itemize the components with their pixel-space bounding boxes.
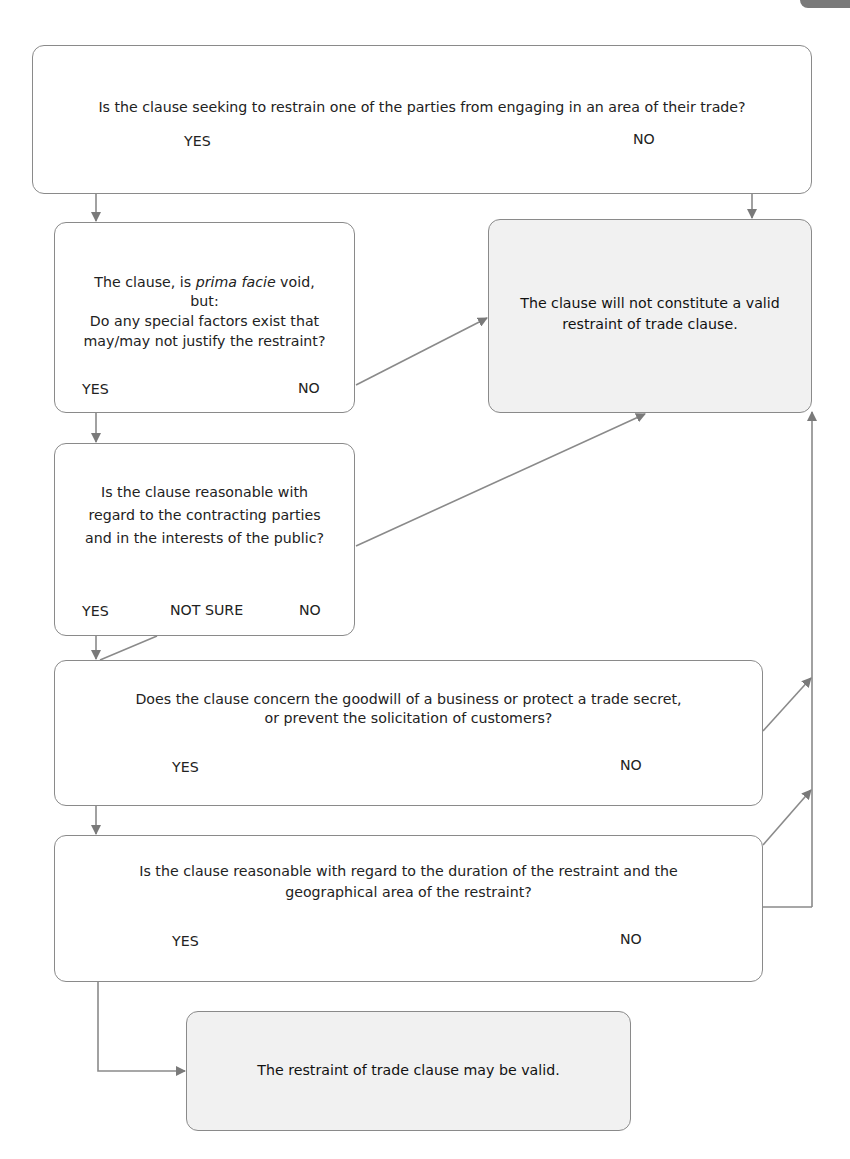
outcome-box-may-be-valid: The restraint of trade clause may be val… <box>186 1011 631 1131</box>
option-no: NO <box>620 930 642 949</box>
option-yes: YES <box>172 758 199 777</box>
question-text-line-4: may/may not justify the restraint? <box>55 332 354 351</box>
question-box-goodwill-trade-secret: Does the clause concern the goodwill of … <box>54 660 763 806</box>
outcome-text-line-2: restraint of trade clause. <box>489 315 811 334</box>
edge-q3-notsure <box>100 636 157 660</box>
question-text-line-2: but: <box>55 292 354 311</box>
question-text-line-1: Does the clause concern the goodwill of … <box>55 690 762 709</box>
option-no: NO <box>633 130 655 149</box>
outcome-text-line-1: The clause will not constitute a valid <box>489 294 811 313</box>
option-no: NO <box>298 379 320 398</box>
question-text: Is the clause seeking to restrain one of… <box>33 98 811 117</box>
edge-q3-no <box>356 414 645 546</box>
option-yes: YES <box>184 132 211 151</box>
question-text-line-1: The clause, is prima facie void, <box>55 273 354 292</box>
question-text-line-3: and in the interests of the public? <box>55 529 354 548</box>
option-yes: YES <box>82 380 109 399</box>
edge-q2-no <box>356 318 487 385</box>
question-text-line-2: regard to the contracting parties <box>55 506 354 525</box>
italic-prima-facie: prima facie <box>196 274 276 290</box>
outcome-box-not-valid: The clause will not constitute a valid r… <box>488 219 812 413</box>
edge-q5-no-diag <box>763 790 811 845</box>
outcome-text: The restraint of trade clause may be val… <box>187 1061 630 1080</box>
option-yes: YES <box>172 932 199 951</box>
edge-q5-yes <box>98 982 185 1071</box>
question-text-line-3: Do any special factors exist that <box>55 312 354 331</box>
question-box-reasonable-parties-public: Is the clause reasonable with regard to … <box>54 443 355 636</box>
option-not-sure: NOT SURE <box>170 601 243 620</box>
question-box-special-factors: The clause, is prima facie void, but: Do… <box>54 222 355 413</box>
option-no: NO <box>299 601 321 620</box>
edge-q4-no <box>763 678 811 731</box>
question-box-duration-geography: Is the clause reasonable with regard to … <box>54 835 763 982</box>
option-yes: YES <box>82 602 109 621</box>
option-no: NO <box>620 756 642 775</box>
question-text-line-2: or prevent the solicitation of customers… <box>55 709 762 728</box>
question-box-restrain-trade: Is the clause seeking to restrain one of… <box>32 45 812 194</box>
question-text-line-2: geographical area of the restraint? <box>55 883 762 902</box>
question-text-line-1: Is the clause reasonable with regard to … <box>55 862 762 881</box>
question-text-line-1: Is the clause reasonable with <box>55 483 354 502</box>
